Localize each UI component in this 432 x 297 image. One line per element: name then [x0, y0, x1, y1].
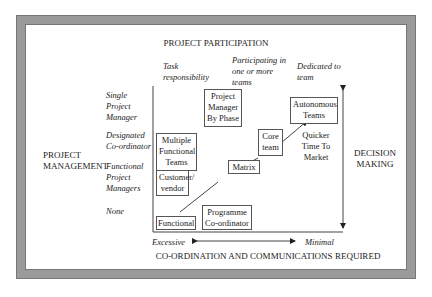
label-participating: Participating in one or more teams — [232, 55, 292, 88]
box-project-manager-by-phase: Project Manager By Phase — [204, 89, 242, 127]
annotation-quicker-time-to-market: Quicker Time To Market — [297, 130, 335, 163]
left-title-project-management: PROJECT MANAGEMENT — [43, 150, 103, 172]
label-single-pm: Single Project Manager — [106, 90, 151, 123]
label-none: None — [106, 206, 151, 217]
label-functional-pms: Functional Project Managers — [106, 161, 151, 194]
box-multiple-functional-teams: Multiple Functional Teams — [156, 133, 197, 171]
box-autonomous-teams: Autonomous Teams — [290, 97, 338, 124]
title-project-participation: PROJECT PARTICIPATION — [0, 39, 432, 48]
bottom-title-coordination: CO-ORDINATION AND COMMUNICATIONS REQUIRE… — [143, 252, 393, 261]
label-designated-coordinator: Designated Co-ordinator — [106, 130, 154, 152]
box-customer-vendor: Customer/ vendor — [156, 170, 189, 196]
label-task-responsibility: Task responsibility — [163, 61, 223, 83]
box-programme-coordinator: Programme Co-ordinator — [202, 205, 252, 230]
axis-label-minimal: Minimal — [305, 237, 334, 248]
box-core-team: Core team — [258, 129, 283, 156]
box-matrix: Matrix — [228, 160, 260, 174]
label-dedicated: Dedicated to team — [297, 61, 347, 83]
axis-label-excessive: Excessive — [152, 237, 185, 248]
right-title-decision-making: DECISION MAKING — [350, 148, 400, 170]
box-functional: Functional — [156, 216, 196, 230]
